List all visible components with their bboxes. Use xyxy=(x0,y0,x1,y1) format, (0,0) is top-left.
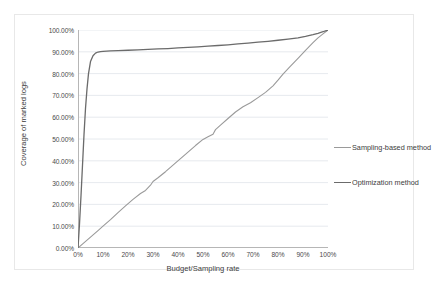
legend-line-swatch xyxy=(334,147,351,148)
y-axis-title: Coverage of marked logs xyxy=(19,54,28,194)
y-axis-tick-label: 80.00% xyxy=(30,70,74,77)
legend-item[interactable]: Sampling-based method xyxy=(334,143,431,152)
plot-svg xyxy=(78,30,328,248)
plot-area xyxy=(78,30,328,248)
y-axis-tick-label: 30.00% xyxy=(30,179,74,186)
y-axis-tick-label: 40.00% xyxy=(30,157,74,164)
y-axis-tick-labels: 0.00%10.00%20.00%30.00%40.00%50.00%60.00… xyxy=(28,30,74,248)
y-axis-tick-label: 20.00% xyxy=(30,201,74,208)
y-axis-tick-label: 70.00% xyxy=(30,92,74,99)
x-axis-tick-labels: 0%10%20%30%40%50%60%70%80%90%100% xyxy=(78,251,328,265)
y-axis-tick-label: 90.00% xyxy=(30,48,74,55)
legend-item-label: Optimization method xyxy=(352,178,419,187)
y-axis-tick-label: 60.00% xyxy=(30,114,74,121)
chart-container: 0.00%10.00%20.00%30.00%40.00%50.00%60.00… xyxy=(0,0,432,297)
legend-line-swatch xyxy=(334,182,351,183)
y-axis-tick-label: 10.00% xyxy=(30,223,74,230)
legend-item-label: Sampling-based method xyxy=(352,143,431,152)
legend-item[interactable]: Optimization method xyxy=(334,178,419,187)
y-axis-tick-label: 100.00% xyxy=(30,27,74,34)
x-axis-tick-label: 100% xyxy=(308,251,348,258)
y-axis-tick-label: 50.00% xyxy=(30,136,74,143)
x-axis-title: Budget/Sampling rate xyxy=(78,264,328,273)
